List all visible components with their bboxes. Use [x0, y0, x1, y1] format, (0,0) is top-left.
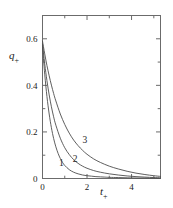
- y-axis-title: q+: [9, 50, 19, 64]
- axis-ticks: [43, 16, 161, 179]
- plot-canvas: 02400.20.40.6 123: [0, 0, 173, 208]
- x-axis-title: t+: [100, 186, 108, 200]
- y-axis-title-subscript: +: [15, 56, 20, 65]
- x-axis-title-subscript: +: [103, 192, 108, 201]
- plot-frame: [43, 16, 161, 179]
- y-axis-title-symbol: q: [9, 49, 15, 61]
- y-tick-label: 0.4: [26, 81, 38, 91]
- plot-box: [43, 16, 161, 179]
- curve-3: [43, 41, 161, 176]
- curve-label-3: 3: [82, 135, 87, 145]
- chart-figure: 02400.20.40.6 123 q+ t+: [0, 0, 173, 208]
- x-tick-label: 2: [85, 182, 90, 192]
- y-tick-label: 0.2: [26, 127, 37, 137]
- curve-label-2: 2: [73, 154, 78, 164]
- x-tick-label: 4: [129, 182, 134, 192]
- x-tick-label: 0: [40, 182, 45, 192]
- y-tick-label: 0: [33, 174, 38, 184]
- curve-label-1: 1: [59, 158, 64, 168]
- y-tick-label: 0.6: [26, 34, 38, 44]
